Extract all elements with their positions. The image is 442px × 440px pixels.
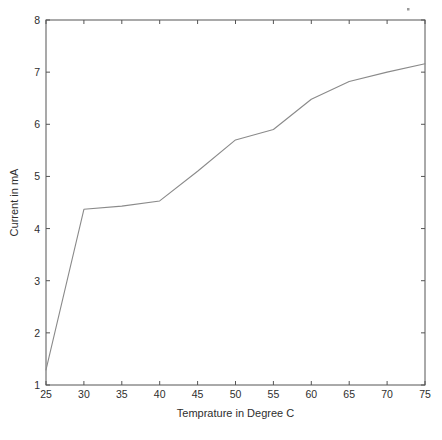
x-tick-label: 35	[116, 388, 128, 400]
scan-artifact	[407, 8, 410, 11]
x-tick-label: 70	[381, 388, 393, 400]
plot-frame	[46, 20, 425, 385]
y-tick-label: 5	[34, 170, 40, 182]
x-tick-label: 30	[78, 388, 90, 400]
y-tick-label: 2	[34, 327, 40, 339]
y-tick-label: 8	[34, 14, 40, 26]
figure-canvas: 253035404550556065707512345678Temprature…	[0, 0, 442, 440]
line-chart: 253035404550556065707512345678Temprature…	[0, 0, 442, 440]
x-tick-label: 40	[154, 388, 166, 400]
x-axis-label: Temprature in Degree C	[177, 407, 294, 419]
y-tick-label: 1	[34, 379, 40, 391]
y-tick-label: 7	[34, 66, 40, 78]
y-tick-label: 3	[34, 275, 40, 287]
x-tick-label: 75	[419, 388, 431, 400]
x-tick-label: 55	[268, 388, 280, 400]
y-axis-label: Current in mA	[8, 168, 20, 237]
x-tick-label: 60	[305, 388, 317, 400]
x-tick-label: 65	[343, 388, 355, 400]
data-series-current	[46, 64, 425, 370]
x-tick-label: 45	[192, 388, 204, 400]
x-tick-label: 25	[40, 388, 52, 400]
x-tick-label: 50	[230, 388, 242, 400]
y-tick-label: 4	[34, 223, 40, 235]
y-tick-label: 6	[34, 118, 40, 130]
